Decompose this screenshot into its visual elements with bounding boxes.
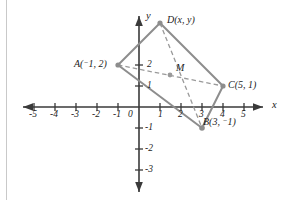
y-axis-arrow-down	[135, 182, 143, 192]
y-axis-arrow-up	[135, 16, 143, 26]
x-axis-label: x	[272, 100, 277, 111]
y-tick-label-1: 1	[147, 81, 152, 91]
point-label-a: A(−1, 2)	[74, 59, 107, 69]
midpoint-m-marker	[168, 73, 173, 78]
x-tick-label-neg4: -4	[50, 110, 58, 120]
x-tick-label-5: 5	[241, 110, 246, 120]
x-tick-label-neg3: -3	[71, 110, 79, 120]
point-b-coords: 1)	[228, 116, 236, 127]
y-tick-label-neg2: -2	[145, 144, 153, 154]
point-label-b: B(3, −1)	[203, 117, 236, 127]
x-tick-label-1: 1	[158, 110, 163, 120]
point-label-m: M	[176, 63, 184, 73]
coordinate-plane-figure: x y 0 -5 -4 -3 -2 -1 1 2 3 4 5 2 1 -1 -2…	[0, 0, 298, 200]
x-tick-label-neg5: -5	[29, 110, 37, 120]
x-tick-label-2: 2	[178, 110, 183, 120]
x-tick-label-neg2: -2	[92, 110, 100, 120]
point-b-prefix: B(3,	[203, 116, 222, 127]
vertex-d-marker	[157, 20, 162, 25]
y-tick-label-neg3: -3	[145, 165, 153, 175]
y-axis-label: y	[146, 11, 151, 22]
point-a-coords: 1, 2)	[89, 58, 107, 69]
origin-label: 0	[128, 110, 133, 120]
x-tick-label-neg1: -1	[113, 110, 121, 120]
x-axis-arrow-right	[253, 103, 263, 111]
point-label-c: C(5, 1)	[228, 80, 256, 90]
y-tick-label-neg1: -1	[145, 123, 153, 133]
vertex-a-marker	[115, 62, 120, 67]
vertex-c-marker	[220, 83, 225, 88]
x-axis	[23, 103, 263, 111]
y-tick-label-2: 2	[147, 60, 152, 70]
point-label-d: D(x, y)	[167, 15, 195, 25]
